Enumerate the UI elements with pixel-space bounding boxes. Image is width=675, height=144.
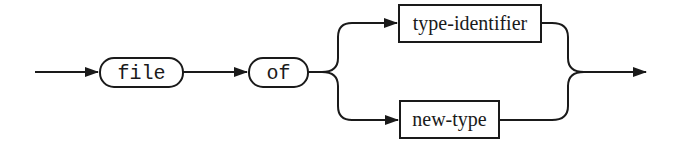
merge-bottom-path bbox=[499, 72, 584, 120]
terminal-file-label: file bbox=[117, 62, 165, 85]
branch-top-path bbox=[322, 23, 397, 72]
nonterminal-type-identifier: type-identifier bbox=[399, 5, 541, 42]
terminal-of: of bbox=[249, 58, 308, 87]
nonterminal-new-type: new-type bbox=[400, 101, 499, 138]
nonterminal-type-identifier-label: type-identifier bbox=[413, 12, 528, 35]
syntax-diagram: file of type-identifier new-type bbox=[0, 0, 675, 144]
nonterminal-new-type-label: new-type bbox=[412, 108, 487, 131]
terminal-of-label: of bbox=[266, 62, 290, 85]
terminal-file: file bbox=[100, 58, 183, 87]
merge-top-path bbox=[541, 23, 584, 72]
branch-bottom-path bbox=[322, 72, 398, 120]
